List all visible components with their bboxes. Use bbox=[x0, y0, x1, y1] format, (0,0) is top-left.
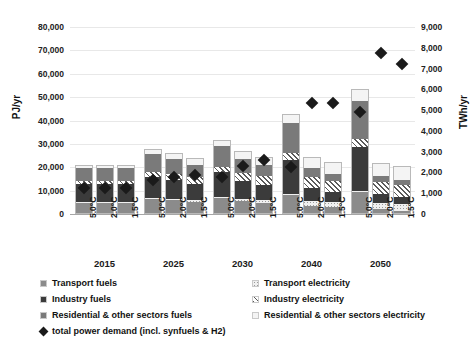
bar-segment-rese bbox=[393, 166, 411, 180]
bar-segment-resf bbox=[255, 165, 273, 176]
bar-segment-rese bbox=[324, 162, 342, 174]
chart-legend: Transport fuelsIndustry fuelsResidential… bbox=[30, 278, 476, 348]
bar-segment-rese bbox=[351, 89, 369, 100]
y-axis-tick-left: 0 bbox=[18, 210, 64, 219]
x-axis-scenario-label: 2.0°C bbox=[385, 197, 395, 218]
bar-segment-rese bbox=[213, 140, 231, 146]
x-axis-scenario-label: 2.0°C bbox=[247, 197, 257, 218]
x-axis-year-label: 2050 bbox=[346, 258, 416, 269]
bar-segment-inde bbox=[234, 173, 252, 180]
y-axis-tick-left: 10,000 bbox=[18, 186, 64, 195]
bar-segment-inde bbox=[324, 181, 342, 192]
bar-segment-inde bbox=[282, 153, 300, 160]
legend-label: Transport electricity bbox=[264, 278, 350, 288]
legend-item: Residential & other sectors fuels bbox=[40, 310, 192, 320]
x-axis-scenario-label: 1.5°C bbox=[199, 197, 209, 218]
legend-label: Industry electricity bbox=[264, 294, 344, 304]
bar-segment-resf bbox=[213, 146, 231, 167]
x-axis-scenario-label: 5.0°C bbox=[295, 197, 305, 218]
legend-swatch-indf bbox=[40, 296, 47, 303]
legend-item: Residential & other sectors electricity bbox=[252, 310, 425, 320]
bar-segment-rese bbox=[372, 163, 390, 176]
legend-swatch-trf bbox=[40, 280, 47, 287]
x-axis-year-label: 2030 bbox=[208, 258, 278, 269]
y-axis-tick-right: 2,000 bbox=[421, 168, 463, 177]
y-axis-tick-left: 70,000 bbox=[18, 46, 64, 55]
x-axis-scenario-label: 1.5°C bbox=[406, 197, 416, 218]
bar-segment-inde bbox=[255, 176, 273, 184]
plot-area bbox=[70, 27, 415, 214]
bar-segment-inde bbox=[303, 177, 321, 188]
bar-segment-rese bbox=[96, 165, 114, 169]
legend-item: Transport fuels bbox=[40, 278, 117, 288]
legend-swatch-rese bbox=[252, 312, 259, 319]
total-power-demand-marker bbox=[305, 96, 318, 109]
x-axis-scenario-label: 5.0°C bbox=[226, 197, 236, 218]
legend-swatch-diamond bbox=[39, 326, 49, 336]
legend-item: Industry fuels bbox=[40, 294, 111, 304]
legend-swatch-inde bbox=[252, 296, 259, 303]
bar-segment-rese bbox=[144, 149, 162, 155]
bar-segment-resf bbox=[117, 168, 135, 180]
legend-item: Industry electricity bbox=[252, 294, 344, 304]
legend-item: Transport electricity bbox=[252, 278, 350, 288]
legend-label: total power demand (incl. synfuels & H2) bbox=[52, 326, 226, 336]
bar-segment-resf bbox=[372, 176, 390, 182]
bar-segment-rese bbox=[282, 114, 300, 123]
bar-segment-resf bbox=[282, 123, 300, 153]
x-axis-scenario-label: 5.0°C bbox=[157, 197, 167, 218]
legend-item: total power demand (incl. synfuels & H2) bbox=[40, 326, 226, 336]
legend-swatch-resf bbox=[40, 312, 47, 319]
legend-label: Residential & other sectors electricity bbox=[264, 310, 425, 320]
y-axis-tick-left: 50,000 bbox=[18, 93, 64, 102]
x-axis-year-label: 2040 bbox=[277, 258, 347, 269]
x-axis-year-label: 2025 bbox=[139, 258, 209, 269]
x-axis-scenario-label: 2.0°C bbox=[109, 197, 119, 218]
bar-segment-rese bbox=[75, 165, 93, 169]
y-axis-tick-left: 80,000 bbox=[18, 23, 64, 32]
bar-segment-inde bbox=[393, 185, 411, 198]
bar-segment-rese bbox=[234, 151, 252, 159]
y-axis-tick-right: 7,000 bbox=[421, 64, 463, 73]
bar-segment-resf bbox=[324, 174, 342, 181]
bar-segment-inde bbox=[351, 139, 369, 147]
x-axis-scenario-label: 1.5°C bbox=[130, 197, 140, 218]
y-axis-tick-left: 60,000 bbox=[18, 70, 64, 79]
bar-segment-tre bbox=[351, 191, 369, 192]
legend-label: Residential & other sectors fuels bbox=[52, 310, 192, 320]
x-axis-year-label: 2015 bbox=[70, 258, 140, 269]
bar-segment-indf bbox=[351, 147, 369, 191]
gridline bbox=[70, 74, 415, 75]
bar-segment-rese bbox=[303, 157, 321, 168]
y-axis-tick-right: 0 bbox=[421, 210, 463, 219]
bar-segment-inde bbox=[372, 182, 390, 194]
total-power-demand-marker bbox=[374, 47, 387, 60]
gridline bbox=[70, 50, 415, 51]
bar-segment-resf bbox=[96, 168, 114, 180]
legend-label: Transport fuels bbox=[52, 278, 117, 288]
bar-segment-resf bbox=[144, 154, 162, 171]
total-power-demand-marker bbox=[326, 96, 339, 109]
y-axis-tick-right: 9,000 bbox=[421, 23, 463, 32]
y-axis-tick-left: 40,000 bbox=[18, 116, 64, 125]
bar-segment-rese bbox=[186, 158, 204, 165]
legend-label: Industry fuels bbox=[52, 294, 111, 304]
x-axis-scenario-label: 1.5°C bbox=[268, 197, 278, 218]
y-axis-tick-left: 30,000 bbox=[18, 140, 64, 149]
y-axis-tick-right: 1,000 bbox=[421, 189, 463, 198]
x-axis-scenario-label: 5.0°C bbox=[364, 197, 374, 218]
x-axis-scenario-label: 2.0°C bbox=[178, 197, 188, 218]
gridline bbox=[70, 27, 415, 28]
legend-swatch-tre bbox=[252, 280, 259, 287]
y-axis-tick-right: 5,000 bbox=[421, 106, 463, 115]
bar-segment-rese bbox=[117, 165, 135, 169]
y-axis-tick-right: 6,000 bbox=[421, 85, 463, 94]
y-axis-tick-right: 4,000 bbox=[421, 127, 463, 136]
bar-segment-resf bbox=[303, 168, 321, 177]
bar-segment-tre bbox=[282, 194, 300, 195]
bar-segment-rese bbox=[165, 153, 183, 159]
y-axis-tick-right: 8,000 bbox=[421, 44, 463, 53]
energy-demand-stacked-bar-chart: PJ/yr TWh/yr 010,00020,00030,00040,00050… bbox=[0, 0, 476, 355]
bar-segment-resf bbox=[75, 168, 93, 180]
x-axis-scenario-label: 2.0°C bbox=[316, 197, 326, 218]
